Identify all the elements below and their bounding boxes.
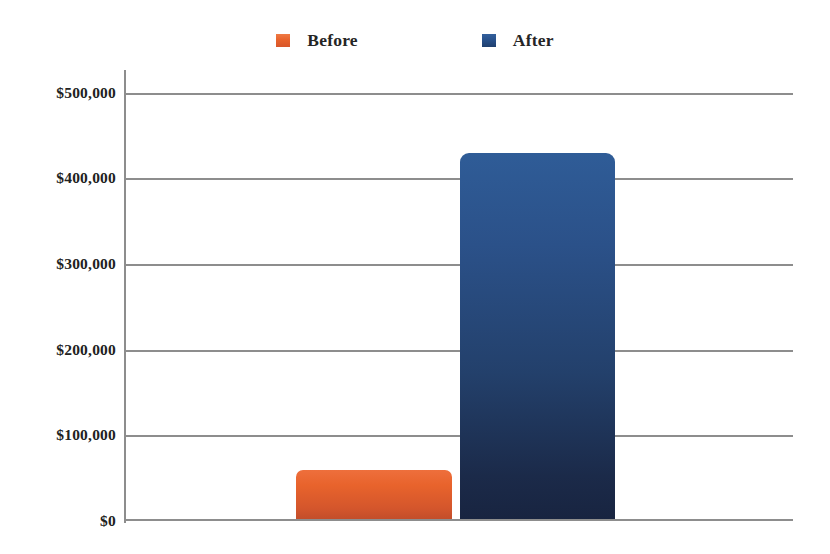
chart-legend: Before After — [0, 27, 830, 53]
legend-entry-after: After — [482, 27, 554, 53]
x-axis-baseline — [125, 519, 793, 521]
gridline-500000 — [125, 93, 793, 95]
gridline-400000 — [125, 178, 793, 180]
legend-entry-before: Before — [276, 27, 357, 53]
legend-label-after: After — [513, 30, 554, 51]
gridline-200000 — [125, 350, 793, 352]
legend-label-before: Before — [307, 30, 357, 51]
gridline-300000 — [125, 264, 793, 266]
y-tick-label-200000: $200,000 — [6, 341, 116, 359]
bar-before — [296, 470, 452, 521]
after-swatch-icon — [482, 34, 496, 47]
plot-area — [125, 93, 793, 521]
bar-after — [460, 153, 615, 521]
y-tick-label-300000: $300,000 — [6, 255, 116, 273]
y-tick-label-400000: $400,000 — [6, 169, 116, 187]
y-tick-label-100000: $100,000 — [6, 426, 116, 444]
y-tick-label-500000: $500,000 — [6, 84, 116, 102]
y-tick-label-0: $0 — [6, 512, 116, 530]
bar-chart: Before After $500,000 $400,000 $300,000 … — [0, 0, 830, 554]
before-swatch-icon — [276, 34, 290, 47]
gridline-100000 — [125, 435, 793, 437]
